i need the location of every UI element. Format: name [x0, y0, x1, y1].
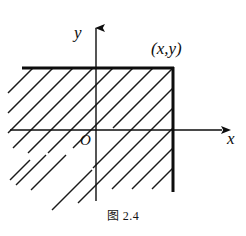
hatch-line [152, 168, 173, 189]
hatch-line [52, 170, 92, 210]
hatch-line [31, 155, 66, 190]
origin-label: O [80, 133, 91, 148]
hatch-line [8, 68, 33, 93]
figure-caption: 图 2.4 [0, 206, 246, 224]
y-axis-label: y [74, 24, 82, 41]
point-coordinate-label: (x,y) [151, 40, 182, 57]
hatch-line [8, 68, 73, 133]
hatch-line [78, 108, 173, 203]
hatch-line [132, 148, 173, 189]
hatch-line [112, 128, 173, 189]
hatch-line [8, 68, 53, 113]
hatch-line [93, 88, 173, 168]
coordinate-figure-svg [0, 0, 246, 236]
x-axis-label: x [227, 130, 235, 147]
hatch-line [10, 160, 30, 180]
figure-container: (x,y) y x O 图 2.4 [0, 0, 246, 236]
